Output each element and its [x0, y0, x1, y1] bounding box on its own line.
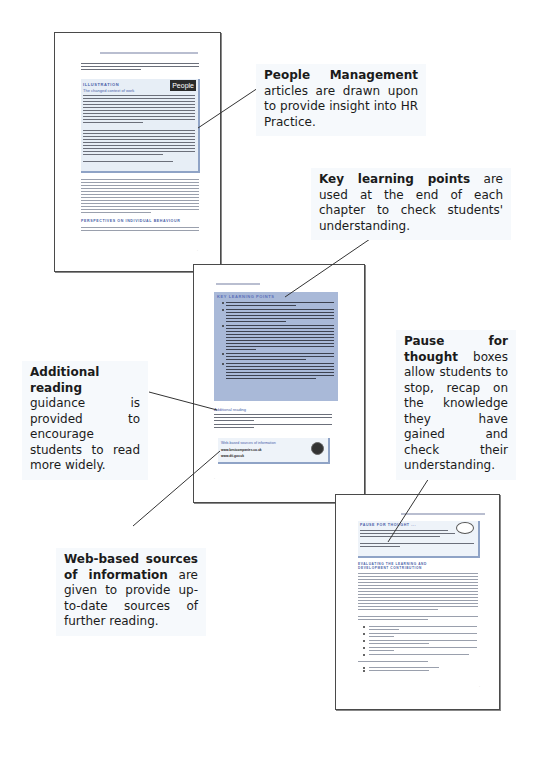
text-line — [83, 133, 195, 134]
text-line — [226, 359, 306, 360]
text-line — [83, 104, 195, 105]
key-points-heading: KEY LEARNING POINTS — [217, 294, 275, 299]
text-line — [360, 546, 400, 547]
text-line — [369, 650, 394, 651]
text-line — [226, 366, 334, 367]
text-line — [83, 116, 195, 117]
text-line — [83, 145, 195, 146]
text-line — [81, 188, 199, 189]
text-line — [226, 363, 334, 364]
page-number: · — [214, 477, 215, 481]
text-line — [81, 227, 199, 228]
text-line — [83, 148, 195, 149]
text-line — [81, 206, 199, 207]
illustration-box: ILLUSTRATION The changed context of work… — [81, 79, 200, 173]
text-line — [226, 378, 316, 379]
text-line — [83, 142, 195, 143]
text-line — [83, 161, 173, 162]
text-line — [226, 356, 334, 357]
text-line — [358, 661, 428, 662]
pause-for-thought-box: PAUSE FOR THOUGHT ... — [358, 521, 480, 558]
text-line — [83, 122, 143, 123]
text-line — [226, 337, 334, 338]
globe-icon — [311, 442, 324, 455]
text-line — [81, 212, 151, 213]
text-line — [226, 372, 334, 373]
callout-additional-reading: Additional reading guidance is provided … — [22, 361, 148, 480]
text-line — [81, 230, 199, 231]
text-line — [358, 606, 478, 607]
key-learning-points-box: KEY LEARNING POINTS — [214, 292, 338, 401]
text-line — [358, 591, 478, 592]
text-line — [226, 325, 334, 326]
text-line — [358, 603, 478, 604]
text-line — [226, 315, 334, 316]
text-line — [358, 600, 478, 601]
text-line — [214, 420, 254, 421]
bullet — [222, 302, 224, 304]
text-line — [226, 375, 334, 376]
text-line — [360, 543, 474, 544]
callout-bold-term: Additional reading — [30, 365, 99, 395]
illustration-heading: ILLUSTRATION — [83, 82, 119, 87]
text-line — [369, 647, 477, 648]
text-line — [83, 154, 163, 155]
text-line — [369, 670, 429, 671]
text-line — [214, 417, 332, 418]
web-url[interactable]: www.bestcompanies.co.uk — [221, 448, 262, 452]
text-line — [226, 309, 334, 310]
text-line — [81, 191, 199, 192]
text-line — [81, 63, 199, 64]
text-line — [226, 321, 286, 322]
text-line — [83, 136, 195, 137]
text-line — [369, 626, 477, 627]
bullet — [222, 353, 224, 355]
callout-pause-for-thought: Pause for thought boxes allow students t… — [396, 330, 516, 480]
text-line — [83, 113, 195, 114]
bullet — [363, 667, 365, 669]
running-head — [216, 283, 260, 285]
text-line — [369, 654, 469, 655]
text-line — [81, 69, 141, 70]
text-line — [226, 331, 334, 332]
illustration-page: ILLUSTRATION The changed context of work… — [54, 32, 221, 272]
text-line — [369, 629, 399, 630]
web-sources-box: Web-based sources of information www.bes… — [218, 438, 330, 464]
bullet — [222, 309, 224, 311]
callout-key-learning-points: Key learning points are used at the end … — [311, 168, 511, 240]
running-head — [401, 513, 485, 515]
text-line — [81, 185, 199, 186]
illustration-subheading: The changed context of work — [83, 88, 134, 93]
text-line — [358, 594, 478, 595]
running-head — [100, 52, 198, 54]
text-line — [358, 582, 478, 583]
thought-bubble-icon — [456, 522, 474, 534]
text-line — [358, 576, 478, 577]
callout-text: articles are drawn upon to provide insig… — [264, 84, 418, 129]
text-line — [358, 616, 478, 617]
callout-people-management: People Management articles are drawn upo… — [256, 64, 426, 136]
web-url[interactable]: www.dti.gov.uk — [221, 454, 244, 458]
text-line — [226, 346, 334, 347]
text-line — [81, 194, 199, 195]
callout-bold-term: People Management — [264, 68, 418, 82]
text-line — [83, 119, 195, 120]
callout-bold-term: Key learning points — [319, 172, 470, 186]
text-line — [83, 110, 195, 111]
text-line — [226, 353, 334, 354]
bullet — [222, 363, 224, 365]
text-line — [214, 424, 332, 425]
text-line — [360, 530, 448, 531]
text-line — [81, 200, 199, 201]
text-line — [226, 302, 334, 303]
bullet — [363, 626, 365, 628]
text-line — [226, 312, 334, 313]
text-line — [369, 667, 439, 668]
text-line — [226, 369, 334, 370]
page-number: · — [197, 249, 198, 253]
callout-web-sources: Web-based sources of information are giv… — [56, 548, 206, 636]
text-line — [83, 107, 195, 108]
section-heading: EVALUATING THE LEARNING AND DEVELOPMENT … — [358, 562, 448, 570]
text-line — [83, 98, 195, 99]
text-line — [226, 343, 334, 344]
